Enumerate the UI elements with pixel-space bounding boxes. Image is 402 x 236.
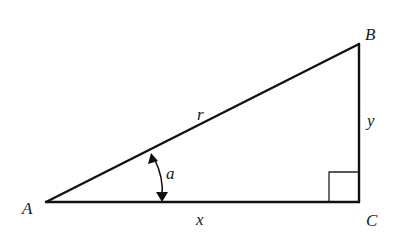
side-label-y: y: [365, 111, 375, 130]
right-angle-marker: [329, 172, 359, 202]
arrowhead-down-icon: [156, 192, 168, 202]
vertex-label-b: B: [365, 25, 376, 44]
angle-label-a: a: [166, 164, 175, 183]
side-label-x: x: [195, 210, 204, 229]
side-label-r: r: [197, 105, 204, 124]
vertex-label-c: C: [366, 211, 378, 230]
vertex-label-a: A: [21, 199, 33, 218]
right-triangle-diagram: A B C r y x a: [0, 0, 402, 236]
angle-a-marker: [148, 153, 168, 202]
